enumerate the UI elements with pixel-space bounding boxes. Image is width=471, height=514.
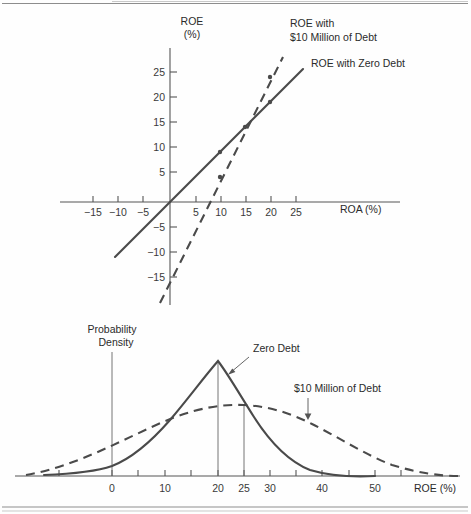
top-x-tick-label: 10 xyxy=(215,206,227,218)
top-x-tick-label: −10 xyxy=(109,206,127,218)
top-x-tick-label: 20 xyxy=(265,206,277,218)
top-y-tick-label: 5 xyxy=(159,166,165,178)
top-y-tick-label: 20 xyxy=(153,91,165,103)
bottom-x-tick-label: 0 xyxy=(109,482,115,494)
top-y-tick-label: −10 xyxy=(147,246,165,258)
top-y-tick-label: −15 xyxy=(147,271,165,283)
series-debt-marker xyxy=(218,175,222,179)
top-chart: −15 −10 −5 5 10 15 20 25 25 20 15 xyxy=(60,15,405,305)
bottom-x-tick-label: 30 xyxy=(264,482,276,494)
figure-canvas: −15 −10 −5 5 10 15 20 25 25 20 15 xyxy=(0,0,471,514)
bottom-chart-x-axis-title: ROE (%) xyxy=(414,482,456,494)
top-y-tick-label: 10 xyxy=(153,141,165,153)
series-debt-marker xyxy=(268,75,272,79)
top-x-tick-label: 15 xyxy=(240,206,252,218)
bottom-chart-x-ticks xyxy=(59,470,401,476)
top-chart-debt-label-line1: ROE with xyxy=(290,17,335,29)
top-chart-x-ticks xyxy=(93,196,296,202)
debt-arrow-icon xyxy=(305,398,312,420)
top-chart-y-ticks xyxy=(170,72,177,277)
top-chart-debt-label-line2: $10 Million of Debt xyxy=(290,31,377,43)
top-x-tick-label: −15 xyxy=(84,206,102,218)
top-x-tick-label: −5 xyxy=(137,206,149,218)
top-x-tick-label: 25 xyxy=(290,206,302,218)
top-chart-zero-debt-label: ROE with Zero Debt xyxy=(311,57,405,69)
top-chart-x-axis-title: ROA (%) xyxy=(340,203,381,215)
bottom-x-tick-label: 20 xyxy=(212,482,224,494)
bottom-chart-zero-debt-label: Zero Debt xyxy=(253,342,300,354)
series-zero-debt-marker xyxy=(243,125,247,129)
bottom-x-tick-label: 25 xyxy=(238,482,250,494)
top-x-tick-label: 5 xyxy=(193,206,199,218)
top-y-tick-label: −5 xyxy=(153,221,165,233)
bottom-x-tick-label: 50 xyxy=(369,482,381,494)
top-chart-y-axis-unit: (%) xyxy=(184,28,200,40)
bottom-x-tick-label: 40 xyxy=(316,482,328,494)
top-y-tick-label: 25 xyxy=(153,66,165,78)
bottom-chart: 0 10 20 25 30 40 50 ROE (%) Probability … xyxy=(15,323,460,494)
bottom-chart-debt-label: $10 Million of Debt xyxy=(294,382,381,394)
bottom-chart-y-axis-title-line1: Probability xyxy=(87,323,137,335)
bottom-chart-y-axis-title-line2: Density xyxy=(98,336,134,348)
bottom-x-tick-label: 10 xyxy=(159,482,171,494)
zero-debt-arrow-icon xyxy=(228,357,249,375)
series-zero-debt-marker xyxy=(218,150,222,154)
financial-leverage-figure: −15 −10 −5 5 10 15 20 25 25 20 15 xyxy=(0,0,471,514)
series-debt-line xyxy=(160,57,283,303)
series-zero-debt-line xyxy=(115,69,303,257)
series-zero-debt-marker xyxy=(268,100,272,104)
series-zero-debt-density xyxy=(44,361,375,476)
series-debt-density xyxy=(26,405,458,476)
top-chart-y-axis-title: ROE xyxy=(181,15,204,27)
top-y-tick-label: 15 xyxy=(153,116,165,128)
